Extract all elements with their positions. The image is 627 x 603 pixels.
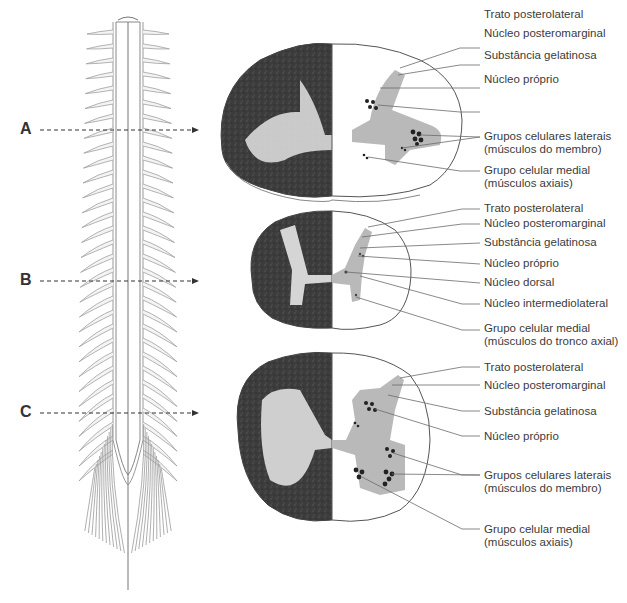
label-c-trato-posterolateral: Trato posterolateral xyxy=(484,361,583,374)
label-c-nucleo-posteromarginal: Núcleo posteromarginal xyxy=(484,379,605,392)
label-b-trato-posterolateral: Trato posterolateral xyxy=(484,202,583,215)
label-b-substancia-gelatinosa: Substância gelatinosa xyxy=(484,236,597,249)
label-b-nucleo-posteromarginal: Núcleo posteromarginal xyxy=(484,217,605,230)
label-b-nucleo-intermediolateral: Núcleo intermediolateral xyxy=(484,297,608,310)
label-a-grupos-laterais: Grupos celulares laterais xyxy=(484,130,611,143)
label-c-nucleo-proprio: Núcleo próprio xyxy=(484,430,559,443)
level-label-c: C xyxy=(20,403,32,421)
label-a-nucleo-posteromarginal: Núcleo posteromarginal xyxy=(484,27,605,40)
level-label-a: A xyxy=(20,120,32,138)
spinal-cord-diagram: A B C Trato posterolateral Núcleo poster… xyxy=(0,0,627,603)
label-a-grupo-medial: Grupo celular medial xyxy=(484,164,590,177)
label-a-trato-posterolateral: Trato posterolateral xyxy=(484,8,583,21)
level-label-b: B xyxy=(20,271,32,289)
label-b-nucleo-dorsal: Núcleo dorsal xyxy=(484,276,554,289)
cross-section-b xyxy=(251,211,411,330)
label-b-grupo-medial: Grupo celular medial xyxy=(484,322,590,335)
label-a-substancia-gelatinosa: Substância gelatinosa xyxy=(484,49,597,62)
label-c-substancia-gelatinosa: Substância gelatinosa xyxy=(484,405,597,418)
label-a-grupo-medial-sub: (músculos axiais) xyxy=(484,177,573,190)
label-c-grupos-laterais-sub: (músculos do membro) xyxy=(484,482,602,495)
label-b-nucleo-proprio: Núcleo próprio xyxy=(484,257,559,270)
label-c-grupo-medial: Grupo celular medial xyxy=(484,523,590,536)
label-a-nucleo-proprio: Núcleo próprio xyxy=(484,73,559,86)
label-b-grupo-medial-sub: (músculos do tronco axial) xyxy=(484,335,618,348)
cross-section-a xyxy=(221,43,462,201)
label-c-grupos-laterais: Grupos celulares laterais xyxy=(484,469,611,482)
label-c-grupo-medial-sub: (músculos axiais) xyxy=(484,536,573,549)
cord-body xyxy=(113,17,143,590)
label-a-grupos-laterais-sub: (músculos do membro) xyxy=(484,143,602,156)
